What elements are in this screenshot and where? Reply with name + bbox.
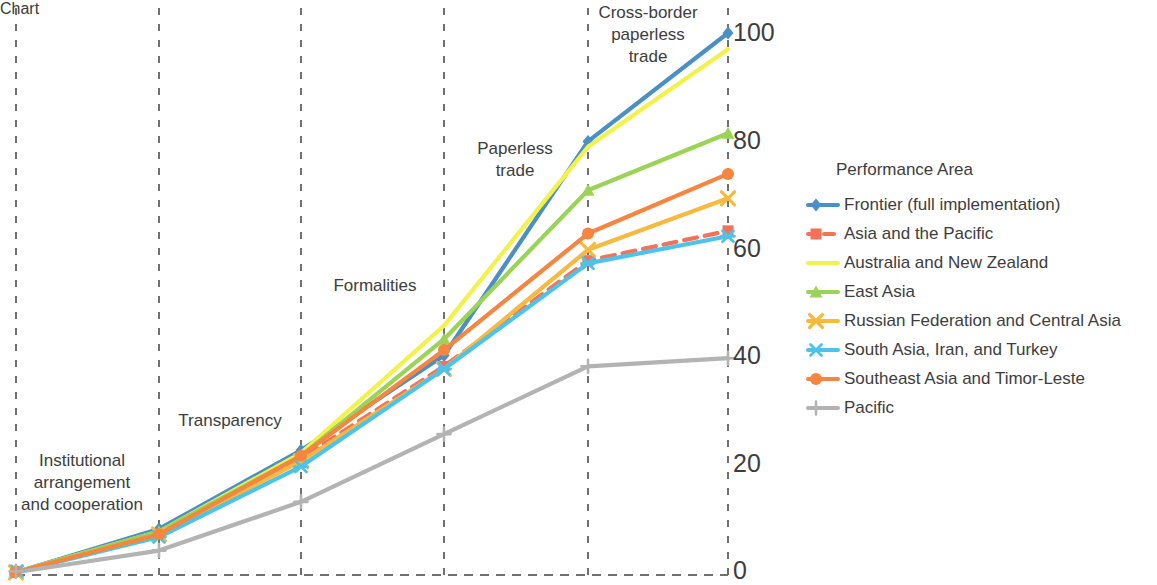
legend-label-0: Frontier (full implementation) — [844, 195, 1060, 215]
y-tick-0: 0 — [733, 556, 747, 585]
legend-entry-list: Frontier (full implementation)Asia and t… — [806, 190, 1154, 422]
legend-marker-cross-icon — [806, 311, 840, 331]
category-label-formalities: Formalities — [315, 275, 435, 297]
legend-label-2: Australia and New Zealand — [844, 253, 1048, 273]
y-tick-60: 60 — [733, 234, 761, 263]
legend-item-7[interactable]: Pacific — [806, 393, 1154, 422]
legend-marker-asterisk-icon — [806, 340, 840, 360]
legend-label-3: East Asia — [844, 282, 915, 302]
legend-title: Performance Area — [836, 160, 1154, 180]
category-label-cross-border-paperless-trade: Cross-border paperless trade — [578, 2, 718, 68]
y-tick-20: 20 — [733, 449, 761, 478]
legend-label-1: Asia and the Pacific — [844, 224, 993, 244]
legend-label-4: Russian Federation and Central Asia — [844, 311, 1121, 331]
legend-item-2[interactable]: Australia and New Zealand — [806, 248, 1154, 277]
legend-item-1[interactable]: Asia and the Pacific — [806, 219, 1154, 248]
legend-item-5[interactable]: South Asia, Iran, and Turkey — [806, 335, 1154, 364]
legend-marker-none-icon — [806, 253, 840, 273]
legend-marker-circle-icon — [806, 369, 840, 389]
legend-item-6[interactable]: Southeast Asia and Timor-Leste — [806, 364, 1154, 393]
y-tick-80: 80 — [733, 126, 761, 155]
category-label-institutional: Institutional arrangement and cooperatio… — [12, 450, 152, 516]
legend-item-3[interactable]: East Asia — [806, 277, 1154, 306]
y-tick-100: 100 — [733, 18, 775, 47]
category-label-paperless-trade: Paperless trade — [450, 138, 580, 182]
legend-item-4[interactable]: Russian Federation and Central Asia — [806, 306, 1154, 335]
legend-marker-diamond-icon — [806, 195, 840, 215]
category-label-transparency: Transparency — [165, 410, 295, 432]
legend-label-5: South Asia, Iran, and Turkey — [844, 340, 1058, 360]
legend-marker-square-icon — [806, 224, 840, 244]
line-chart: 100 80 40 60 20 0 Institutional arrangem… — [0, 0, 1157, 585]
legend-item-0[interactable]: Frontier (full implementation) — [806, 190, 1154, 219]
legend-label-7: Pacific — [844, 398, 894, 418]
legend-marker-plus-icon — [806, 398, 840, 418]
chart-legend: Performance Area Frontier (full implemen… — [806, 160, 1154, 422]
legend-marker-triangle-icon — [806, 282, 840, 302]
origin-marker-cluster — [9, 565, 24, 579]
y-tick-40: 40 — [733, 341, 761, 370]
legend-label-6: Southeast Asia and Timor-Leste — [844, 369, 1085, 389]
